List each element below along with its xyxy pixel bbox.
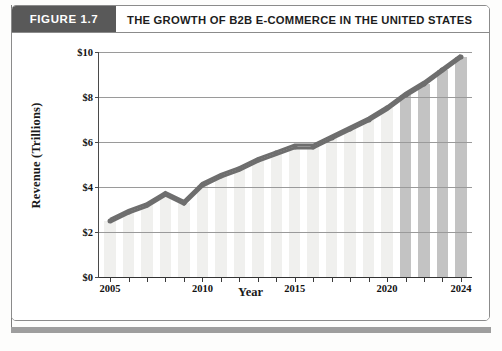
x-tick-mark-2017 (332, 277, 333, 282)
y-tick-mark-0 (95, 277, 99, 278)
data-point-2021 (403, 92, 408, 97)
x-tick-mark-2022 (424, 277, 425, 282)
data-point-2005 (108, 218, 113, 223)
x-tick-mark-2006 (129, 277, 130, 282)
x-tick-mark-2008 (165, 277, 166, 282)
y-tick-mark-6 (95, 142, 99, 143)
data-point-2017 (329, 135, 334, 140)
x-tick-mark-2024 (461, 277, 462, 282)
y-tick-label-10: $10 (59, 47, 93, 58)
x-tick-label-2005: 2005 (100, 283, 121, 294)
data-point-2018 (348, 126, 353, 131)
y-tick-mark-8 (95, 97, 99, 98)
x-tick-label-2010: 2010 (192, 283, 213, 294)
data-point-2010 (200, 182, 205, 187)
x-tick-mark-2021 (406, 277, 407, 282)
data-point-2008 (163, 191, 168, 196)
x-tick-mark-2010 (202, 277, 203, 282)
y-tick-label-4: $4 (59, 182, 93, 193)
x-tick-mark-2011 (221, 277, 222, 282)
data-point-2023 (440, 68, 445, 73)
data-point-2020 (385, 106, 390, 111)
y-tick-label-6: $6 (59, 137, 93, 148)
x-tick-mark-2018 (350, 277, 351, 282)
data-point-2024 (458, 54, 463, 59)
x-tick-label-2020: 2020 (377, 283, 398, 294)
figure-container: FIGURE 1.7 THE GROWTH OF B2B E-COMMERCE … (11, 5, 490, 321)
x-tick-mark-2012 (239, 277, 240, 282)
plot-area: $0$2$4$6$8$1020052010201520202024 (98, 52, 472, 278)
data-point-2007 (145, 203, 150, 208)
data-point-2014 (274, 151, 279, 156)
data-point-2016 (311, 144, 316, 149)
data-point-2009 (181, 200, 186, 205)
x-tick-mark-2013 (258, 277, 259, 282)
data-point-2012 (237, 167, 242, 172)
y-tick-label-8: $8 (59, 92, 93, 103)
x-tick-label-2015: 2015 (284, 283, 305, 294)
y-tick-mark-4 (95, 187, 99, 188)
footer-rule (11, 327, 491, 333)
y-tick-label-0: $0 (59, 272, 93, 283)
x-tick-mark-2009 (184, 277, 185, 282)
plot-inner (99, 52, 472, 277)
x-tick-mark-2007 (147, 277, 148, 282)
x-axis-title: Year (12, 285, 489, 300)
data-series-line (99, 52, 472, 277)
data-point-2022 (421, 81, 426, 86)
y-axis-title: Revenue (Trillions) (29, 66, 44, 246)
figure-screenshot: FIGURE 1.7 THE GROWTH OF B2B E-COMMERCE … (0, 0, 502, 351)
data-point-2015 (292, 144, 297, 149)
figure-number-tag: FIGURE 1.7 (12, 6, 116, 32)
x-tick-mark-2016 (313, 277, 314, 282)
y-tick-label-2: $2 (59, 227, 93, 238)
x-tick-mark-2015 (295, 277, 296, 282)
data-point-2019 (366, 117, 371, 122)
x-tick-mark-2005 (110, 277, 111, 282)
chart-body: Revenue (Trillions) Year $0$2$4$6$8$1020… (12, 33, 489, 320)
x-tick-mark-2023 (442, 277, 443, 282)
figure-header: FIGURE 1.7 THE GROWTH OF B2B E-COMMERCE … (12, 6, 489, 33)
x-tick-label-2024: 2024 (450, 283, 471, 294)
x-tick-mark-2019 (369, 277, 370, 282)
data-point-2013 (255, 158, 260, 163)
figure-title: THE GROWTH OF B2B E-COMMERCE IN THE UNIT… (122, 6, 484, 32)
y-tick-mark-10 (95, 52, 99, 53)
y-tick-mark-2 (95, 232, 99, 233)
x-tick-mark-2020 (387, 277, 388, 282)
data-point-2006 (126, 209, 131, 214)
data-point-2011 (218, 173, 223, 178)
x-tick-mark-2014 (276, 277, 277, 282)
